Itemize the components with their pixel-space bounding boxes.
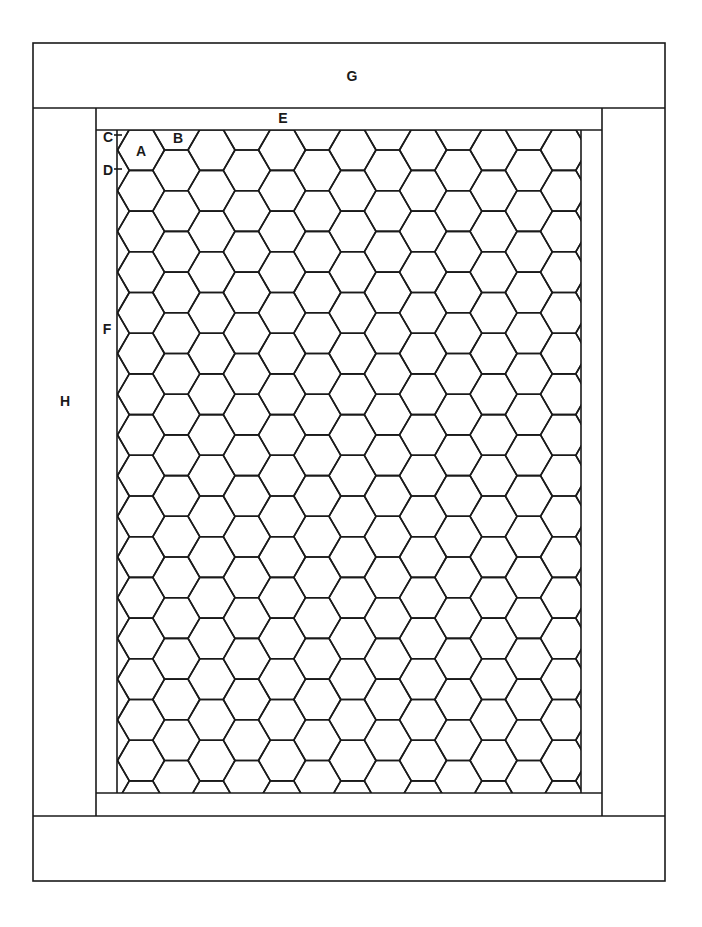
honeycomb-panel (82, 69, 658, 863)
hexagon-cell (153, 679, 200, 720)
hexagon-cell (576, 272, 623, 313)
hexagon-cell (329, 577, 376, 618)
label-c: C (103, 130, 113, 144)
hexagon-cell (364, 231, 411, 272)
hexagon-cell (576, 598, 623, 639)
hexagon-cell (364, 557, 411, 598)
hexagon-cell (259, 496, 306, 537)
hexagon-cell (153, 435, 200, 476)
hexagon-cell (505, 354, 552, 395)
hexagon-cell (82, 557, 129, 598)
hexagon-cell (188, 822, 235, 863)
hexagon-cell (435, 191, 482, 232)
hexagon-cell (118, 252, 165, 293)
hexagon-cell (470, 537, 517, 578)
hexagon-cell (259, 822, 306, 863)
hexagon-cell (153, 720, 200, 761)
hexagon-cell (470, 374, 517, 415)
hexagon-cell (364, 191, 411, 232)
hexagon-cell (400, 618, 447, 659)
hexagon-cell (400, 89, 447, 130)
hexagon-cell (470, 577, 517, 618)
hexagon-cell (153, 69, 200, 110)
hexagon-cell (223, 354, 270, 395)
hexagon-cell (611, 130, 658, 171)
hexagon-cell (505, 476, 552, 517)
hexagon-cell (118, 333, 165, 374)
hexagon-cell (470, 211, 517, 252)
hexagon-cell (259, 130, 306, 171)
hexagon-cell (223, 516, 270, 557)
hexagon-cell (223, 476, 270, 517)
hexagon-cell (188, 211, 235, 252)
hexagon-cell (223, 598, 270, 639)
hexagon-cell (364, 516, 411, 557)
hexagon-cell (153, 598, 200, 639)
hexagon-cell (505, 272, 552, 313)
hexagon-cell (611, 537, 658, 578)
hexagon-cell (294, 638, 341, 679)
hexagon-cell (294, 313, 341, 354)
hexagon-cell (435, 638, 482, 679)
hexagon-cell (153, 516, 200, 557)
hexagon-cell (118, 293, 165, 334)
hexagon-cell (259, 455, 306, 496)
hexagon-cell (294, 191, 341, 232)
hexagon-cell (118, 170, 165, 211)
hexagon-cell (259, 700, 306, 741)
hexagon-cell (153, 638, 200, 679)
hexagon-cell (400, 822, 447, 863)
hexagon-cell (259, 537, 306, 578)
hexagon-cell (82, 516, 129, 557)
hexagon-cell (329, 822, 376, 863)
hexagon-cell (505, 801, 552, 842)
hexagon-cell (153, 761, 200, 802)
hexagon-cell (505, 435, 552, 476)
hexagon-cell (118, 740, 165, 781)
hexagon-cell (505, 231, 552, 272)
hexagon-cell (576, 638, 623, 679)
hexagon-cell (188, 415, 235, 456)
hexagon-cell (188, 293, 235, 334)
hexagon-cell (82, 231, 129, 272)
label-f: F (103, 322, 112, 336)
hexagon-cell (223, 69, 270, 110)
hexagon-cell (364, 69, 411, 110)
hexagon-cell (223, 272, 270, 313)
hexagon-cell (259, 659, 306, 700)
hexagon-cell (294, 231, 341, 272)
hexagon-cell (576, 801, 623, 842)
hexagon-cell (364, 435, 411, 476)
hexagon-cell (611, 415, 658, 456)
hexagon-cell (188, 700, 235, 741)
hexagon-cell (435, 679, 482, 720)
hexagon-cell (329, 130, 376, 171)
hexagon-cell (470, 822, 517, 863)
hexagon-cell (435, 354, 482, 395)
hexagon-cell (611, 252, 658, 293)
hexagon-cell (118, 822, 165, 863)
hexagon-cell (364, 313, 411, 354)
hexagon-cell (400, 170, 447, 211)
hexagon-cell (505, 516, 552, 557)
hexagon-cell (435, 598, 482, 639)
hexagon-cell (576, 150, 623, 191)
hexagon-cell (470, 130, 517, 171)
hexagon-cell (470, 415, 517, 456)
hexagon-cell (435, 69, 482, 110)
hexagon-cell (118, 374, 165, 415)
label-e: E (278, 111, 287, 125)
label-h: H (60, 394, 70, 408)
hexagon-cell (118, 659, 165, 700)
hexagon-cell (223, 191, 270, 232)
hexagon-cell (329, 252, 376, 293)
hexagon-cell (223, 679, 270, 720)
hexagon-cell (118, 211, 165, 252)
hexagon-cell (294, 720, 341, 761)
hexagon-cell (505, 557, 552, 598)
hexagon-cell (364, 761, 411, 802)
hexagon-cell (611, 170, 658, 211)
hexagon-cell (188, 170, 235, 211)
hexagon-cell (541, 89, 588, 130)
hexagon-cell (329, 618, 376, 659)
